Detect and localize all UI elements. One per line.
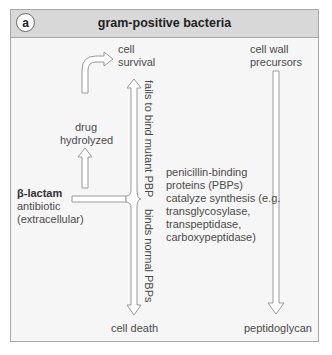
label-line: survival	[118, 56, 155, 69]
label-line: hydrolyzed	[60, 134, 112, 147]
label-beta-lactam: β-lactam antibiotic (extracellular)	[17, 187, 84, 226]
arrow-to-cell-survival-main	[126, 79, 141, 315]
beta-lactam-text: β-lactam	[17, 187, 62, 199]
label-line: transpeptidase,	[166, 218, 280, 231]
label-peptidoglycan: peptidoglycan	[244, 322, 312, 335]
arrow-to-cell-survival	[82, 52, 113, 93]
label-line: transglycosylase,	[166, 205, 280, 218]
label-cell-survival: cell survival	[118, 43, 155, 69]
label-binds-normal: binds normal PBPs	[143, 209, 155, 303]
label-line: penicillin-binding	[166, 166, 280, 179]
label-line: precursors	[250, 56, 302, 69]
label-line: cell wall	[250, 43, 302, 56]
arrow-to-drug-hydrolyzed	[78, 148, 92, 188]
label-line: catalyze synthesis (e.g.	[166, 192, 280, 205]
label-line: carboxypeptidase)	[166, 231, 280, 244]
label-cell-wall-precursors: cell wall precursors	[250, 43, 302, 69]
label-pbp-description: penicillin-binding proteins (PBPs) catal…	[166, 166, 280, 244]
label-line: antibiotic	[17, 200, 84, 213]
label-fails-to-bind: fails to bind mutant PBP	[143, 80, 155, 197]
label-line: cell	[118, 43, 155, 56]
label-cell-death: cell death	[111, 322, 158, 335]
label-line: proteins (PBPs)	[166, 179, 280, 192]
label-line: (extracellular)	[17, 213, 84, 226]
label-line: β-lactam	[17, 187, 84, 200]
label-line: drug	[60, 121, 112, 134]
label-drug-hydrolyzed: drug hydrolyzed	[60, 121, 112, 147]
